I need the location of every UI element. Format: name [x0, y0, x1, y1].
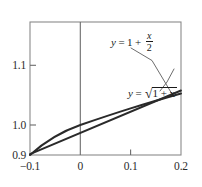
y-tick-label-bottom: 0.9 [2, 149, 26, 161]
x-tick-label-0-2: 0.2 [163, 160, 199, 172]
x-tick-label-neg-0-1: −0.1 [12, 160, 48, 172]
tangent-fraction-denominator: 2 [146, 42, 153, 53]
tangent-lhs-y: y [111, 37, 116, 48]
tangent-equals: = [118, 37, 124, 48]
tangent-plus: + [135, 37, 141, 48]
curve-sqrt-1-plus-x [30, 94, 181, 156]
figure-container: 1.1 1.0 0.9 −0.1 0 0.1 0.2 y = 1 + x 2 y… [0, 0, 202, 187]
sqrt-radical-group: √ 1 + x [145, 87, 177, 101]
curve-label-tangent: y = 1 + x 2 [111, 31, 153, 53]
sqrt-lhs-y: y [128, 88, 133, 99]
tangent-constant-one: 1 [127, 37, 133, 48]
tangent-fraction: x 2 [146, 31, 153, 53]
curve-label-sqrt: y = √ 1 + x [128, 87, 177, 101]
sqrt-expression: y = √ 1 + x [128, 87, 177, 101]
sqrt-equals: = [135, 88, 141, 99]
x-tick-label-0-1: 0.1 [113, 160, 149, 172]
y-tick-marks [30, 65, 36, 125]
x-tick-label-0: 0 [62, 160, 98, 172]
tangent-expression: y = 1 + x 2 [111, 31, 153, 53]
y-tick-label-mid: 1.0 [2, 119, 26, 131]
y-tick-label-top: 1.1 [2, 59, 26, 71]
sqrt-radicand: 1 + x [152, 87, 177, 101]
tangent-fraction-numerator: x [146, 31, 152, 42]
